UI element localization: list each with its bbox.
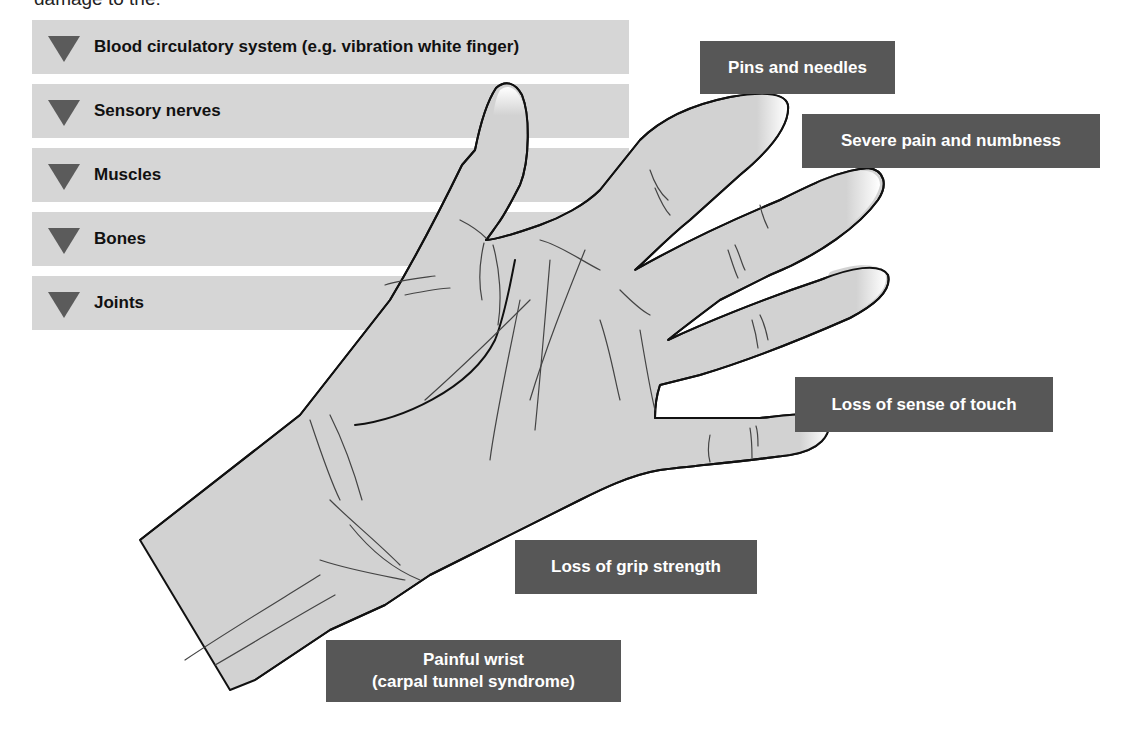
hand-shape	[140, 83, 889, 690]
label-painful-wrist-line2: (carpal tunnel syndrome)	[372, 671, 575, 693]
label-loss-of-sense-of-touch: Loss of sense of touch	[795, 377, 1053, 432]
label-pins-and-needles: Pins and needles	[700, 41, 895, 94]
hand-illustration	[0, 0, 1121, 737]
label-severe-pain-and-numbness: Severe pain and numbness	[802, 114, 1100, 168]
label-painful-wrist: Painful wrist (carpal tunnel syndrome)	[326, 640, 621, 702]
label-painful-wrist-line1: Painful wrist	[423, 649, 524, 671]
label-loss-of-grip-strength: Loss of grip strength	[515, 540, 757, 594]
